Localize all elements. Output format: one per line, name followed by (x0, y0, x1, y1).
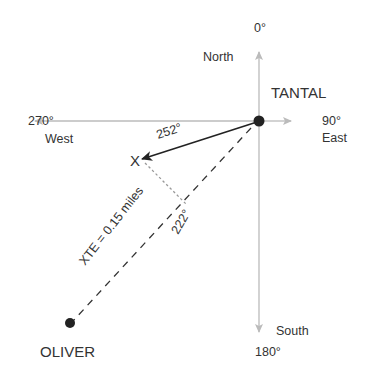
east-degrees-label: 90° (322, 114, 341, 128)
xte-diagram: 0° North 90° East 270° West South 180° T… (0, 0, 367, 385)
south-degrees-label: 180° (255, 345, 281, 359)
tantal-waypoint-dot (254, 116, 265, 127)
intended-course-bearing-label: 222° (168, 207, 193, 236)
current-position-x-marker: X (130, 152, 140, 169)
north-label: North (203, 50, 234, 64)
xte-distance-label: XTE = 0.15 miles (76, 184, 146, 268)
xte-perpendicular-line (145, 163, 187, 205)
oliver-waypoint-dot (65, 318, 75, 328)
west-label: West (45, 132, 74, 146)
actual-track-bearing-label: 252° (155, 121, 184, 142)
tantal-label: TANTAL (271, 84, 326, 101)
intended-course-line (73, 128, 251, 321)
north-degrees-label: 0° (254, 21, 266, 35)
south-label: South (276, 324, 309, 338)
oliver-label: OLIVER (40, 343, 95, 360)
east-label: East (322, 131, 348, 145)
west-degrees-label: 270° (28, 114, 54, 128)
